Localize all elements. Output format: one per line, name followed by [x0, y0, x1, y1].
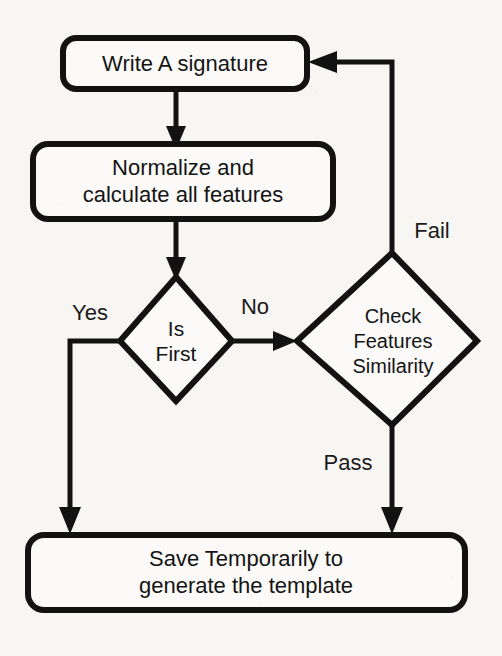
node-is-first-label-line2: First	[156, 342, 197, 365]
flowchart-svg: Check Features (right) --> Save (left th…	[0, 0, 502, 656]
node-normalize-features[interactable]: Normalize and calculate all features	[33, 144, 333, 219]
node-save-template-label-line2: generate the template	[139, 573, 353, 598]
node-normalize-features-label-line1: Normalize and	[112, 155, 254, 180]
node-is-first[interactable]: Is First	[120, 277, 232, 401]
edge-isfirst-no-to-check	[232, 331, 297, 351]
node-write-signature[interactable]: Write A signature	[63, 38, 307, 89]
node-is-first-label-line1: Is	[168, 317, 184, 340]
edge-label-yes: Yes	[72, 300, 108, 325]
node-normalize-features-label-line2: calculate all features	[83, 182, 284, 207]
node-save-template-label-line1: Save Temporarily to	[149, 546, 343, 571]
edge-label-no: No	[241, 294, 269, 319]
edge-label-fail: Fail	[414, 218, 449, 243]
edge-label-pass: Pass	[324, 450, 373, 475]
edge-normalize-to-isfirst	[166, 219, 186, 281]
edge-isfirst-yes-to-save	[59, 341, 120, 534]
edge-check-pass-to-save	[381, 425, 403, 534]
node-save-template[interactable]: Save Temporarily to generate the templat…	[28, 535, 465, 610]
node-write-signature-label: Write A signature	[102, 51, 268, 76]
flowchart-canvas: Check Features (right) --> Save (left th…	[0, 0, 502, 656]
node-check-features-similarity-label-line2: Features	[354, 330, 433, 352]
edge-write-to-normalize	[166, 88, 186, 150]
node-check-features-similarity[interactable]: Check Features Similarity	[297, 253, 477, 425]
node-check-features-similarity-label-line1: Check	[365, 305, 423, 327]
node-check-features-similarity-label-line3: Similarity	[352, 355, 433, 377]
